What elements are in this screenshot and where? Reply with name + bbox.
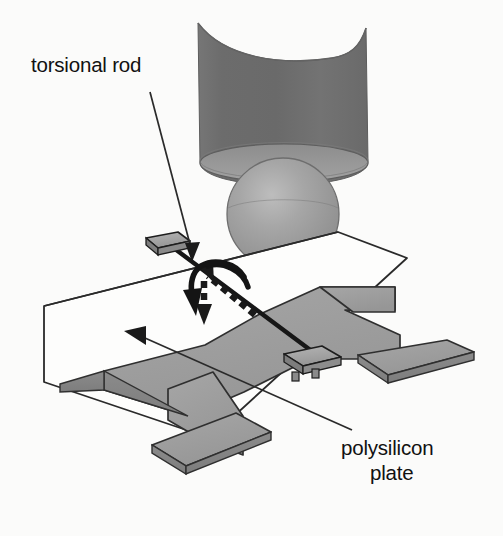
label-polysilicon-plate: polysiliconplate [341, 435, 433, 485]
label-polysilicon-plate-line2: plate [341, 460, 433, 485]
left-anchor-block [146, 232, 190, 255]
label-polysilicon-plate-line1: polysilicon [341, 436, 433, 459]
figure-canvas: torsional rod polysiliconplate [0, 0, 503, 536]
label-torsional-rod: torsional rod [31, 52, 141, 77]
